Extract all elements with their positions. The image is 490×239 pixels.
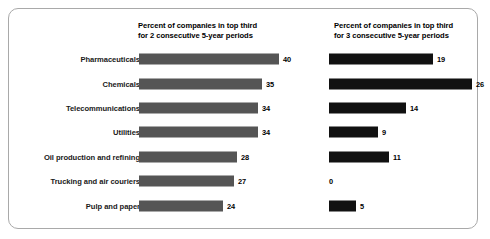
- bar-value-left: 27: [238, 177, 246, 186]
- category-label: Trucking and air couriers: [51, 177, 140, 186]
- chart-row: Pharmaceuticals4019: [9, 47, 479, 71]
- bar-value-right: 14: [410, 103, 418, 112]
- category-label: Telecommunications: [66, 103, 140, 112]
- bar-left: [139, 127, 258, 138]
- bar-track-left: 40: [139, 54, 291, 65]
- bar-value-left: 34: [262, 103, 270, 112]
- bar-track-right: 0: [329, 176, 333, 187]
- bar-value-right: 19: [437, 55, 445, 64]
- category-label: Chemicals: [102, 79, 140, 88]
- bar-value-left: 34: [262, 128, 270, 137]
- chart-row: Pulp and paper245: [9, 193, 479, 217]
- bar-track-left: 28: [139, 151, 249, 162]
- bar-value-left: 35: [266, 79, 274, 88]
- column-header-left: Percent of companies in top third for 2 …: [138, 21, 288, 40]
- chart-row: Trucking and air couriers270: [9, 169, 479, 193]
- bar-right: [329, 102, 406, 113]
- chart-row: Utilities349: [9, 120, 479, 144]
- bar-value-right: 5: [360, 201, 364, 210]
- category-label: Utilities: [113, 128, 140, 137]
- bar-right: [329, 78, 472, 89]
- bar-value-right: 11: [393, 152, 401, 161]
- bar-track-left: 24: [139, 200, 235, 211]
- chart-frame: Percent of companies in top third for 2 …: [8, 8, 478, 229]
- chart-row: Chemicals3526: [9, 71, 479, 95]
- bar-left: [139, 102, 258, 113]
- bar-track-left: 34: [139, 127, 270, 138]
- bar-track-right: 9: [329, 127, 386, 138]
- column-header-right: Percent of companies in top third for 3 …: [334, 21, 484, 40]
- bar-value-right: 0: [329, 177, 333, 186]
- bar-track-right: 14: [329, 102, 418, 113]
- category-label: Pulp and paper: [86, 201, 140, 210]
- chart-rows: Pharmaceuticals4019Chemicals3526Telecomm…: [9, 47, 479, 218]
- bar-track-right: 19: [329, 54, 445, 65]
- bar-left: [139, 151, 237, 162]
- bar-left: [139, 54, 279, 65]
- bar-right: [329, 127, 378, 138]
- bar-right: [329, 54, 433, 65]
- bar-value-right: 9: [382, 128, 386, 137]
- chart-row: Telecommunications3414: [9, 96, 479, 120]
- bar-value-left: 40: [283, 55, 291, 64]
- bar-track-right: 5: [329, 200, 364, 211]
- bar-value-left: 28: [241, 152, 249, 161]
- bar-left: [139, 200, 223, 211]
- category-label: Oil production and refining: [44, 152, 140, 161]
- bar-value-right: 26: [476, 79, 484, 88]
- bar-track-right: 11: [329, 151, 401, 162]
- bar-track-left: 34: [139, 102, 270, 113]
- category-label: Pharmaceuticals: [80, 55, 140, 64]
- bar-track-right: 26: [329, 78, 484, 89]
- chart-row: Oil production and refining2811: [9, 145, 479, 169]
- bar-left: [139, 176, 234, 187]
- bar-left: [139, 78, 262, 89]
- bar-right: [329, 151, 389, 162]
- bar-track-left: 35: [139, 78, 274, 89]
- bar-value-left: 24: [227, 201, 235, 210]
- bar-track-left: 27: [139, 176, 246, 187]
- bar-right: [329, 200, 356, 211]
